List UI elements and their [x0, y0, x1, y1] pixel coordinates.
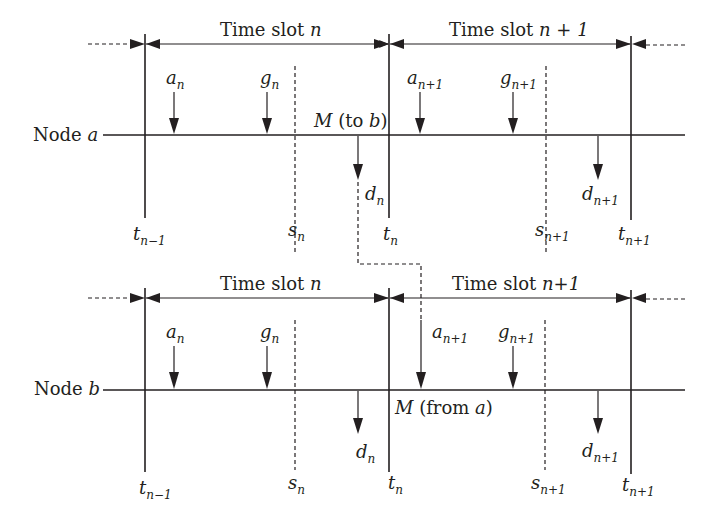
slot-n1-label-a: Time slot n + 1 [449, 19, 589, 40]
message-from-a-label: M (from a) [394, 397, 493, 418]
d-n1-arrow-icon [593, 164, 603, 180]
t-n1-label: tn+1 [622, 474, 655, 499]
arrowhead-icon [130, 39, 145, 49]
g-n-label: gn [260, 321, 279, 346]
s-n1-label: sn+1 [531, 472, 566, 497]
slot-n-label-b: Time slot n [220, 273, 322, 294]
g-n1-arrow-icon [508, 372, 518, 389]
node-b-diagram: Time slot n Time slot n+1 Node b an gn a… [34, 273, 688, 502]
g-n-arrow-icon [262, 372, 272, 389]
t-n1-label: tn+1 [618, 223, 651, 248]
a-n1-arrow-icon [415, 118, 425, 134]
node-a-diagram: Time slot n Time slot n + 1 Node a an gn… [33, 19, 688, 255]
t-n-label: tn [388, 472, 403, 497]
g-n1-arrow-icon [508, 118, 518, 134]
a-n-label: an [166, 321, 184, 346]
message-to-b-label: M (to b) [313, 110, 388, 131]
g-n-label: gn [260, 67, 279, 92]
a-n-arrow-icon [169, 372, 179, 389]
slot-n1-label-b: Time slot n+1 [452, 273, 580, 294]
d-n-arrow-icon [353, 418, 363, 434]
d-n-arrow-icon [353, 164, 363, 180]
s-n-label: sn [288, 472, 305, 497]
g-n1-label: gn+1 [498, 321, 535, 346]
node-a-label: Node a [33, 124, 98, 145]
t-n-1-label: tn−1 [139, 477, 172, 502]
d-n-label: dn [356, 441, 375, 466]
a-n-arrow-icon [169, 118, 179, 134]
d-n1-label: dn+1 [582, 183, 619, 208]
node-b-label: Node b [34, 378, 100, 399]
s-n-label: sn [288, 219, 305, 244]
d-n1-arrow-icon [593, 418, 603, 434]
g-n1-label: gn+1 [500, 67, 537, 92]
d-n1-label: dn+1 [582, 440, 619, 465]
slot-n-label-a: Time slot n [220, 19, 322, 40]
timing-diagram: Time slot n Time slot n + 1 Node a an gn… [0, 0, 720, 526]
a-n1-label: an+1 [407, 67, 443, 92]
s-n1-label: sn+1 [535, 219, 570, 244]
t-n-1-label: tn−1 [133, 223, 166, 248]
g-n-arrow-icon [262, 118, 272, 134]
t-n-label: tn [383, 223, 398, 248]
d-n-label: dn [365, 183, 384, 208]
a-n1-arrow-icon [416, 372, 426, 389]
a-n-label: an [166, 67, 184, 92]
a-n1-label: an+1 [432, 321, 468, 346]
